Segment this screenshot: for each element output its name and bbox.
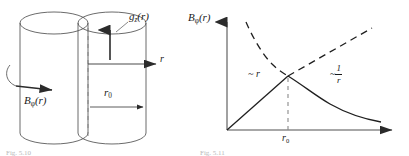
- inside-law-annotation: ~ r: [248, 69, 260, 79]
- r0-label-cylinder: r0: [104, 87, 112, 100]
- radial-axis-label: r: [160, 54, 164, 64]
- circulation-curve: [7, 65, 16, 86]
- plot-r0-tick-label: r0: [282, 133, 289, 144]
- bphi-label-cylinder: Bφ(r): [24, 95, 47, 108]
- figure-container: gz(r) r Bφ(r) r0 Bφ(r) ~ r ~1r r0 Fig. 5…: [0, 0, 409, 156]
- plot-y-axis-label: Bφ(r): [188, 12, 211, 25]
- gz-leader-line: [116, 22, 128, 32]
- bphi-inside-linear-curve: [227, 76, 288, 130]
- outside-law-annotation: ~1r: [330, 64, 342, 85]
- bphi-direction-arrow: [16, 86, 52, 90]
- right-figure-caption: Fig. 5.11: [200, 149, 225, 156]
- one-over-r-fraction: 1r: [335, 64, 342, 85]
- left-figure-caption: Fig. 5.10: [6, 149, 31, 156]
- gz-label: gz(r): [129, 11, 149, 24]
